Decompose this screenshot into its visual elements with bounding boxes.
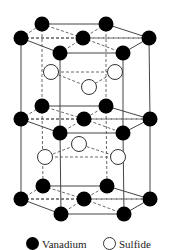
vanadium-filled-circle-icon (26, 237, 39, 250)
vertical-edge (123, 133, 124, 214)
vanadium-atom (35, 17, 50, 32)
vertical-edge (149, 38, 150, 119)
vertical-edge (60, 133, 61, 214)
legend-item-vanadium: Vanadium (26, 237, 87, 250)
vanadium-atom (116, 46, 131, 61)
vanadium-atom (77, 192, 92, 207)
sulfide-atom (38, 150, 53, 165)
vanadium-atom (53, 46, 68, 61)
vanadium-atom (142, 31, 157, 46)
sulfide-atom (108, 65, 123, 80)
legend-label-sulfide: Sulfide (119, 238, 151, 250)
sulfide-atom (72, 137, 87, 152)
vanadium-atom (54, 207, 69, 222)
vertical-back-edge (106, 106, 107, 186)
vanadium-atom (14, 112, 29, 127)
sulfide-atom (44, 65, 59, 80)
legend: Vanadium Sulfide (0, 237, 170, 250)
vertical-back-edge (42, 106, 43, 186)
sulfide-atom (82, 80, 97, 95)
vanadium-atom (117, 207, 132, 222)
vanadium-atom (99, 17, 114, 32)
legend-item-sulfide: Sulfide (103, 237, 151, 250)
vanadium-atom (76, 31, 91, 46)
sulfide-hollow-circle-icon (103, 237, 116, 250)
legend-label-vanadium: Vanadium (42, 238, 87, 250)
vanadium-atom (35, 99, 50, 114)
vanadium-atom (14, 192, 29, 207)
vanadium-atom (99, 99, 114, 114)
vanadium-atom (53, 126, 68, 141)
hexagonal-lattice-diagram (0, 0, 170, 235)
vanadium-atom (143, 112, 158, 127)
vanadium-atom (100, 179, 115, 194)
vanadium-atom (116, 126, 131, 141)
crystal-structure-figure: Vanadium Sulfide (0, 0, 170, 250)
vanadium-atom (77, 112, 92, 127)
vanadium-atom (14, 31, 29, 46)
vanadium-atom (36, 179, 51, 194)
vanadium-atom (143, 192, 158, 207)
sulfide-atom (111, 150, 126, 165)
